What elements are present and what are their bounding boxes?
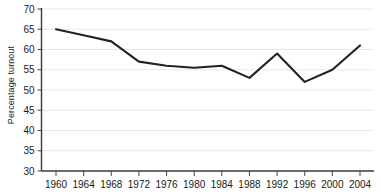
x-tick-label: 1984 bbox=[211, 179, 234, 190]
x-tick-label: 2000 bbox=[321, 179, 344, 190]
turnout-data-line bbox=[56, 29, 360, 82]
x-tick-label: 1960 bbox=[45, 179, 68, 190]
line-chart-plot: 303540455055606570 196019641968197219761… bbox=[0, 0, 382, 194]
x-tick-label: 1980 bbox=[183, 179, 206, 190]
gridlines-group bbox=[42, 9, 375, 151]
x-tick-label: 1964 bbox=[73, 179, 96, 190]
x-tick-label: 1972 bbox=[128, 179, 151, 190]
x-tick-label: 1988 bbox=[238, 179, 261, 190]
x-tick-label: 1996 bbox=[294, 179, 317, 190]
chart-figure: Percentage turnout 303540455055606570 19… bbox=[0, 0, 382, 194]
y-tick-label: 55 bbox=[23, 64, 35, 75]
x-tick-labels-group: 1960196419681972197619801984198819921996… bbox=[45, 179, 372, 190]
y-tick-label: 50 bbox=[23, 85, 35, 96]
x-tick-label: 2004 bbox=[349, 179, 372, 190]
y-tick-label: 30 bbox=[23, 166, 35, 177]
y-tick-label: 45 bbox=[23, 105, 35, 116]
x-tick-marks-group bbox=[56, 171, 360, 176]
x-tick-label: 1976 bbox=[155, 179, 178, 190]
y-tick-labels-group: 303540455055606570 bbox=[23, 4, 35, 177]
y-tick-label: 70 bbox=[23, 4, 35, 15]
y-tick-label: 35 bbox=[23, 145, 35, 156]
y-tick-label: 65 bbox=[23, 24, 35, 35]
x-tick-label: 1968 bbox=[100, 179, 123, 190]
x-tick-label: 1992 bbox=[266, 179, 289, 190]
y-tick-label: 40 bbox=[23, 125, 35, 136]
y-tick-label: 60 bbox=[23, 44, 35, 55]
